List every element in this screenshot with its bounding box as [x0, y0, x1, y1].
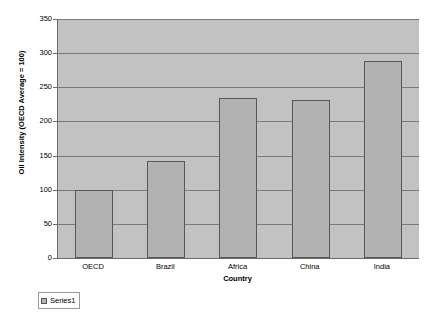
- y-tick-mark: [53, 258, 57, 259]
- bar-oecd[interactable]: [75, 190, 113, 258]
- legend-item-label: Series1: [50, 297, 75, 305]
- y-tick-mark: [53, 190, 57, 191]
- y-axis-title: Oil Intensity (OECD Average = 100): [17, 23, 26, 203]
- y-tick-label: 100: [26, 186, 52, 194]
- legend-swatch-icon: [41, 298, 47, 304]
- y-tick-mark: [53, 224, 57, 225]
- bar-china[interactable]: [292, 100, 330, 258]
- y-tick-label: 0: [26, 254, 52, 262]
- bar-slot: [58, 19, 130, 258]
- plot-area: [57, 19, 419, 259]
- x-tick-label: India: [346, 262, 418, 271]
- y-tick-label: 150: [26, 152, 52, 160]
- bar-chart: 050100150200250300350 Oil Intensity (OEC…: [0, 0, 437, 318]
- y-tick-mark: [53, 156, 57, 157]
- bar-brazil[interactable]: [147, 161, 185, 258]
- y-tick-label: 300: [26, 49, 52, 57]
- x-axis-title: Country: [57, 274, 418, 283]
- y-tick-label: 350: [26, 15, 52, 23]
- bar-slot: [275, 19, 347, 258]
- bars-layer: [58, 19, 419, 258]
- y-tick-mark: [53, 87, 57, 88]
- bar-slot: [130, 19, 202, 258]
- x-tick-label: OECD: [57, 262, 129, 271]
- y-tick-label: 200: [26, 117, 52, 125]
- x-tick-label: China: [274, 262, 346, 271]
- y-tick-label: 250: [26, 83, 52, 91]
- bar-africa[interactable]: [219, 98, 257, 258]
- y-tick-mark: [53, 121, 57, 122]
- bar-slot: [202, 19, 274, 258]
- y-tick-mark: [53, 53, 57, 54]
- y-axis-ticks: 050100150200250300350: [22, 19, 52, 258]
- chart-legend: Series1: [38, 292, 80, 309]
- y-tick-mark: [53, 19, 57, 20]
- y-tick-label: 50: [26, 220, 52, 228]
- x-tick-label: Brazil: [129, 262, 201, 271]
- x-tick-label: Africa: [201, 262, 273, 271]
- bar-india[interactable]: [364, 61, 402, 258]
- bar-slot: [347, 19, 419, 258]
